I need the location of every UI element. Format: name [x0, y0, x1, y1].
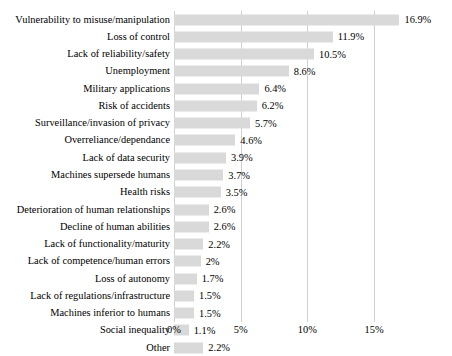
bar-group: 6.4%	[174, 83, 286, 94]
x-tick-label: 5%	[234, 323, 248, 336]
bar	[174, 100, 257, 111]
bar-row: Lack of functionality/maturity2.2%	[0, 235, 452, 252]
bar-group: 10.5%	[174, 49, 346, 60]
value-label: 4.6%	[235, 134, 262, 146]
value-label: 3.5%	[221, 186, 248, 198]
value-label: 8.6%	[289, 65, 316, 77]
bar-group: 2.2%	[174, 239, 230, 250]
category-label: Lack of reliability/safety	[67, 48, 174, 60]
category-label: Decline of human abilities	[60, 221, 174, 233]
value-label: 3.9%	[226, 152, 253, 164]
bar	[174, 14, 399, 25]
value-label: 2.2%	[203, 342, 230, 354]
value-label: 10.5%	[314, 48, 346, 60]
bar	[174, 31, 333, 42]
value-label: 2.2%	[203, 238, 230, 250]
bar-group: 3.9%	[174, 152, 253, 163]
bar	[174, 118, 250, 129]
bar-group: 1.7%	[174, 273, 223, 284]
value-label: 11.9%	[333, 31, 364, 43]
bar-row: Military applications6.4%	[0, 80, 452, 97]
category-label: Lack of data security	[83, 152, 174, 164]
bar	[174, 308, 194, 319]
bar	[174, 170, 223, 181]
bar-row: Lack of competence/human errors2%	[0, 253, 452, 270]
bar	[174, 221, 209, 232]
category-label: Unemployment	[105, 65, 174, 77]
bar	[174, 204, 209, 215]
bar-group: 3.5%	[174, 187, 247, 198]
category-label: Machines supersede humans	[51, 169, 174, 181]
bar-row: Unemployment8.6%	[0, 63, 452, 80]
category-label: Lack of functionality/maturity	[44, 238, 174, 250]
bar-group: 2%	[174, 256, 220, 267]
value-label: 3.7%	[223, 169, 250, 181]
bar	[174, 290, 194, 301]
bar-row: Risk of accidents6.2%	[0, 97, 452, 114]
bar-group: 8.6%	[174, 66, 315, 77]
bar-row: Decline of human abilities2.6%	[0, 218, 452, 235]
bar-group: 2.6%	[174, 204, 235, 215]
value-label: 6.2%	[257, 100, 284, 112]
bar-group: 1.5%	[174, 290, 221, 301]
bar-row: Loss of autonomy1.7%	[0, 270, 452, 287]
bar-row: Machines supersede humans3.7%	[0, 166, 452, 183]
bar-group: 5.7%	[174, 118, 277, 129]
bar-group: 11.9%	[174, 31, 364, 42]
category-label: Vulnerability to misuse/manipulation	[15, 14, 174, 26]
value-label: 6.4%	[259, 83, 286, 95]
bar-group: 3.7%	[174, 170, 250, 181]
bar-row: Health risks3.5%	[0, 184, 452, 201]
bar	[174, 273, 197, 284]
value-label: 2.6%	[209, 221, 236, 233]
bar-rows: Vulnerability to misuse/manipulation16.9…	[0, 11, 452, 322]
category-label: Risk of accidents	[98, 100, 174, 112]
bar-row: Loss of control11.9%	[0, 28, 452, 45]
category-label: Lack of regulations/infrastructure	[30, 290, 174, 302]
bar	[174, 152, 226, 163]
bar	[174, 66, 289, 77]
bar	[174, 342, 203, 353]
category-label: Machines inferior to humans	[50, 307, 174, 319]
bar-group: 2.2%	[174, 342, 230, 353]
x-tick-label: 0%	[167, 323, 181, 336]
bar-row: Lack of regulations/infrastructure1.5%	[0, 287, 452, 304]
value-label: 1.5%	[194, 290, 221, 302]
bar-row: Overreliance/dependance4.6%	[0, 132, 452, 149]
bar-group: 1.5%	[174, 308, 221, 319]
bar-row: Vulnerability to misuse/manipulation16.9…	[0, 11, 452, 28]
bar-row: Lack of reliability/safety10.5%	[0, 46, 452, 63]
category-label: Loss of autonomy	[95, 273, 174, 285]
bar-group: 16.9%	[174, 14, 431, 25]
bar-row: Machines inferior to humans1.5%	[0, 305, 452, 322]
bar-group: 6.2%	[174, 100, 283, 111]
x-tick-label: 15%	[365, 323, 384, 336]
value-label: 2%	[201, 255, 220, 267]
bar-group: 4.6%	[174, 135, 262, 146]
category-label: Other	[146, 342, 174, 354]
bar-row: Surveillance/invasion of privacy5.7%	[0, 115, 452, 132]
bar	[174, 135, 235, 146]
x-tick-label: 10%	[298, 323, 317, 336]
x-axis: 0%5%10%15%	[0, 323, 452, 343]
category-label: Loss of control	[107, 31, 174, 43]
category-label: Lack of competence/human errors	[28, 255, 174, 267]
value-label: 2.6%	[209, 204, 236, 216]
bar-row: Deterioration of human relationships2.6%	[0, 201, 452, 218]
value-label: 1.5%	[194, 307, 221, 319]
value-label: 16.9%	[399, 14, 431, 26]
bar	[174, 187, 221, 198]
category-label: Military applications	[83, 83, 174, 95]
bar-row: Lack of data security3.9%	[0, 149, 452, 166]
category-label: Surveillance/invasion of privacy	[35, 117, 174, 129]
category-label: Overreliance/dependance	[64, 134, 174, 146]
bar-group: 2.6%	[174, 221, 235, 232]
value-label: 5.7%	[250, 117, 277, 129]
bar	[174, 49, 314, 60]
category-label: Deterioration of human relationships	[17, 204, 174, 216]
bar	[174, 256, 201, 267]
bar	[174, 83, 259, 94]
category-label: Health risks	[120, 186, 174, 198]
bar	[174, 239, 203, 250]
